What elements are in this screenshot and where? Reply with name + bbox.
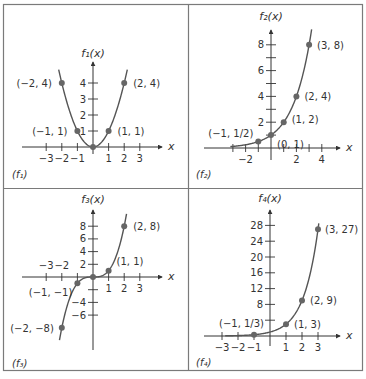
point-label: (−1, 1/3) (219, 318, 264, 329)
panel-label: (f₂) (196, 169, 211, 180)
y-tick-label: −6 (71, 310, 86, 321)
point-label: (1, 1) (118, 126, 145, 137)
x-tick-label: 4 (319, 154, 325, 165)
point-label: (2, 4) (304, 91, 331, 102)
data-point (268, 132, 274, 138)
x-tick-label: 3 (137, 283, 143, 294)
data-point (315, 226, 321, 232)
point-label: (3, 27) (325, 224, 358, 235)
y-tick-label: 4 (258, 91, 264, 102)
point-label: (−1, 1/2) (208, 128, 253, 139)
x-tick-label: −3 (215, 342, 230, 353)
data-point (293, 93, 299, 99)
panel-label: (f₄) (196, 357, 211, 368)
panel-label: (f₁) (12, 169, 27, 180)
data-point (121, 80, 127, 86)
y-tick-label: 6 (80, 233, 86, 244)
x-tick-label: 1 (105, 153, 111, 164)
point-label: (2, 9) (310, 295, 337, 306)
point-label: (1, 1) (117, 256, 144, 267)
y-axis-label: f₄(x) (258, 192, 281, 205)
x-tick-label: −1 (247, 342, 262, 353)
panel-f1: −3−2−11231234(−2, 4)(−1, 1)(1, 1)(2, 4)f… (12, 47, 175, 180)
y-tick-label: 4 (80, 78, 86, 89)
y-axis-label: f₃(x) (81, 193, 104, 206)
data-point (251, 332, 257, 338)
x-tick-label: −2 (54, 153, 69, 164)
y-tick-label: 8 (258, 39, 264, 50)
y-tick-label: −4 (71, 297, 86, 308)
data-point (121, 223, 127, 229)
x-tick-label: −2 (238, 154, 253, 165)
x-tick-label: −1 (70, 153, 85, 164)
data-point (299, 297, 305, 303)
panel-f3: −3−2123−6−42468(−2, −8)(−1, −1)(1, 1)(2,… (10, 193, 175, 369)
point-label: (1, 2) (292, 114, 319, 125)
y-tick-label: 16 (250, 267, 263, 278)
y-tick-label: 8 (257, 299, 263, 310)
data-point (106, 268, 112, 274)
x-axis-label: x (345, 141, 353, 154)
y-tick-label: 3 (80, 94, 86, 105)
data-point (281, 119, 287, 125)
point-label: (−1, −1) (29, 287, 73, 298)
panel-f2: −2242468(−1, 1/2)(0, 1)(1, 2)(2, 4)(3, 8… (196, 10, 353, 180)
figure-frame (4, 5, 363, 371)
x-tick-label: 3 (137, 153, 143, 164)
x-tick-label: 2 (121, 153, 127, 164)
y-tick-label: 1 (80, 126, 86, 137)
point-label: (0, 1) (277, 139, 304, 150)
point-label: (1, 3) (294, 319, 321, 330)
x-tick-label: 1 (105, 283, 111, 294)
x-axis-label: x (167, 270, 175, 283)
point-label: (2, 4) (133, 78, 160, 89)
data-point (90, 144, 96, 150)
data-point (59, 80, 65, 86)
x-tick-label: 2 (293, 154, 299, 165)
x-tick-label: −3 (39, 260, 54, 271)
x-tick-label: −2 (54, 260, 69, 271)
y-axis-label: f₂(x) (259, 10, 282, 23)
y-tick-label: 2 (80, 259, 86, 270)
data-point (283, 321, 289, 327)
x-tick-label: 2 (121, 283, 127, 294)
point-label: (−1, 1) (32, 126, 67, 137)
x-tick-label: 1 (283, 342, 289, 353)
y-tick-label: 6 (258, 65, 264, 76)
x-tick-label: −2 (231, 342, 246, 353)
point-label: (−2, −8) (10, 323, 54, 334)
panel-f4: −3−2−112381216202428(−1, 1/3)(1, 3)(2, 9… (196, 192, 358, 368)
x-tick-label: −3 (39, 153, 54, 164)
x-axis-label: x (345, 329, 353, 342)
data-point (306, 42, 312, 48)
y-tick-label: 4 (80, 246, 86, 257)
x-axis-label: x (167, 140, 175, 153)
data-point (255, 139, 261, 145)
data-point (74, 128, 80, 134)
y-tick-label: 12 (250, 283, 263, 294)
data-point (59, 325, 65, 331)
panel-label: (f₃) (12, 358, 27, 369)
x-tick-label: 3 (315, 342, 321, 353)
y-tick-label: 20 (250, 252, 263, 263)
point-label: (2, 8) (133, 221, 160, 232)
y-tick-label: 2 (258, 117, 264, 128)
point-label: (3, 8) (317, 40, 344, 51)
y-tick-label: 2 (80, 110, 86, 121)
y-tick-label: 8 (80, 221, 86, 232)
data-point (90, 274, 96, 280)
function-graphs-figure: −3−2−11231234(−2, 4)(−1, 1)(1, 1)(2, 4)f… (0, 0, 366, 379)
x-tick-label: 2 (299, 342, 305, 353)
data-point (106, 128, 112, 134)
y-tick-label: 28 (250, 220, 263, 231)
point-label: (−2, 4) (17, 78, 52, 89)
y-tick-label: 24 (250, 236, 263, 247)
y-axis-label: f₁(x) (81, 47, 104, 60)
data-point (74, 280, 80, 286)
